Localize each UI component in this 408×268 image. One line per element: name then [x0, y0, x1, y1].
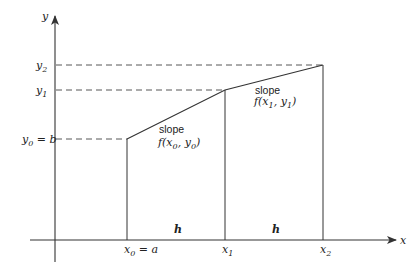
slope-function-2: f(x1, y1) [253, 95, 296, 110]
slope-word-1: slope [159, 123, 184, 135]
step-h-label-1: h [174, 223, 182, 236]
y0-equals-b-label: y0 = b [21, 133, 57, 148]
slope-function-1: f(x0, y0) [157, 136, 200, 151]
y-axis-label: y [41, 10, 49, 23]
x-axis-label: x [400, 234, 407, 247]
y1-label: y1 [35, 84, 47, 99]
x2-label: x2 [320, 243, 331, 258]
x1-label: x1 [222, 243, 233, 258]
euler-method-diagram: y x y2 y1 y0 = b x0 = a x1 x2 h h slope … [0, 0, 408, 268]
step-h-label-2: h [272, 223, 280, 236]
y2-label: y2 [35, 59, 47, 74]
x0-equals-a-label: x0 = a [124, 243, 158, 258]
